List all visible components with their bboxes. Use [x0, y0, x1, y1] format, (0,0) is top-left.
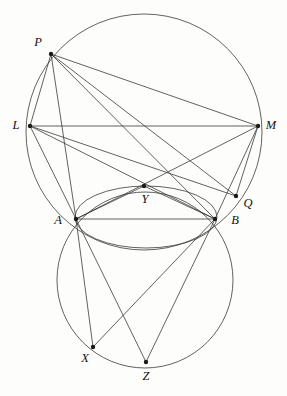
segment-L-B: [30, 126, 215, 219]
label-m: M: [265, 118, 277, 132]
label-x: X: [80, 351, 90, 365]
segment-M-Q: [236, 126, 258, 196]
segment-B-Z: [146, 219, 215, 362]
segment-P-Q: [51, 54, 236, 196]
segment-B-X: [93, 219, 215, 347]
points-layer: [28, 52, 260, 364]
label-l: L: [12, 118, 20, 132]
geometry-figure: PLMYQABXZ: [0, 0, 287, 396]
segment-P-M: [51, 54, 258, 126]
point-a: [74, 217, 78, 221]
point-y: [142, 184, 146, 188]
point-l: [28, 124, 32, 128]
segment-A-X: [76, 219, 93, 347]
point-p: [49, 52, 53, 56]
point-q: [234, 194, 238, 198]
segment-A-Y: [76, 186, 144, 219]
point-b: [213, 217, 217, 221]
label-y: Y: [142, 192, 151, 206]
label-p: P: [33, 35, 42, 49]
geometry-canvas: PLMYQABXZ: [0, 0, 287, 396]
point-m: [256, 124, 260, 128]
label-q: Q: [243, 196, 252, 210]
segment-B-Y: [144, 186, 215, 219]
point-x: [91, 345, 95, 349]
circle-AXZB: [57, 192, 233, 368]
label-z: Z: [143, 369, 151, 383]
label-b: B: [231, 213, 239, 227]
point-z: [144, 360, 148, 364]
segment-M-A: [76, 126, 258, 219]
label-a: A: [53, 213, 62, 227]
segment-P-B: [51, 54, 215, 219]
segment-A-Z: [76, 219, 146, 362]
segment-P-L: [30, 54, 51, 126]
labels-layer: PLMYQABXZ: [12, 35, 277, 383]
